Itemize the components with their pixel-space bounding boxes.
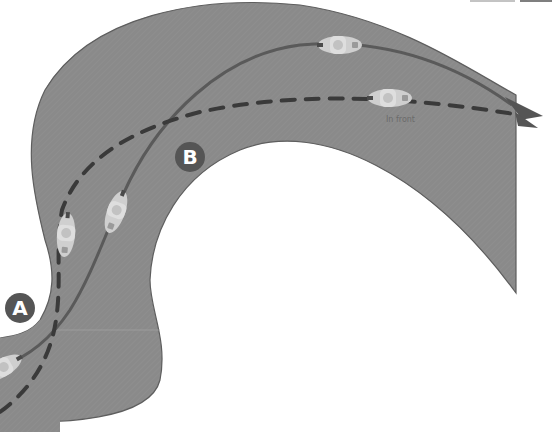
badge-b: B — [175, 142, 205, 172]
in-front-label: In front — [386, 115, 415, 124]
badge-b-label: B — [182, 145, 197, 169]
cornering-diagram: In front B A — [0, 0, 552, 432]
badge-a-label: A — [12, 296, 28, 320]
road-surface — [0, 3, 516, 432]
road-surface-lower-left — [0, 320, 60, 432]
badge-a: A — [5, 293, 35, 323]
